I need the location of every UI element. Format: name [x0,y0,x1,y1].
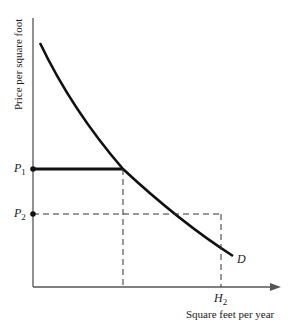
p1-label: P1 [14,161,26,177]
demand-curve-label: D [237,252,246,267]
p2-dot [30,211,36,217]
demand-curve [40,43,233,256]
p2-label: P2 [14,206,26,222]
x-axis-arrow-icon [270,283,281,291]
y-axis-label: Price per square foot [12,19,24,110]
x-axis-label: Square feet per year [186,308,274,320]
h2-label: H2 [214,291,227,307]
p1-dot [30,166,36,172]
demand-chart [0,0,294,331]
